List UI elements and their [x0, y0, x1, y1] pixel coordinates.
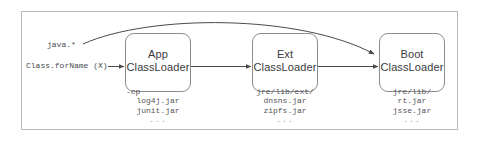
node-boot-path: jre/lib/ [377, 87, 447, 96]
class-forname-label: Class.forName (X) [26, 61, 108, 71]
node-boot-entry-0: rt.jar [377, 96, 447, 105]
node-boot-classpath-list: jre/lib/ rt.jar jsse.jar ... [377, 87, 447, 124]
node-ext-classpath-list: jre/lib/ext/ dnsns.jar zipfs.jar ... [249, 87, 321, 124]
node-boot-title-line2: ClassLoader [380, 61, 444, 74]
node-app-classpath-list: -cp log4j.jar junit.jar ... [125, 87, 191, 124]
node-boot-entry-1: jsse.jar [377, 106, 447, 115]
node-app-ellipsis: ... [125, 115, 191, 124]
node-ext-title-line1: Ext [253, 48, 317, 61]
node-boot-title-line1: Boot [380, 48, 444, 61]
node-boot-classloader[interactable]: Boot ClassLoader [379, 33, 445, 92]
node-ext-ellipsis: ... [249, 115, 321, 124]
java-package-label: java.* [47, 40, 76, 50]
node-ext-path: jre/lib/ext/ [249, 87, 321, 96]
node-ext-title-line2: ClassLoader [253, 61, 317, 74]
node-ext-entry-1: zipfs.jar [249, 106, 321, 115]
node-app-classloader[interactable]: App ClassLoader [125, 33, 191, 92]
classloader-delegation-diagram: java.* Class.forName (X) App ClassLoader… [0, 0, 479, 147]
node-app-entry-0: log4j.jar [125, 96, 191, 105]
node-app-entry-1: junit.jar [125, 106, 191, 115]
node-ext-classloader[interactable]: Ext ClassLoader [252, 33, 318, 92]
node-boot-ellipsis: ... [377, 115, 447, 124]
node-app-path: -cp [125, 87, 191, 96]
node-app-title-line2: ClassLoader [126, 61, 190, 74]
node-ext-entry-0: dnsns.jar [249, 96, 321, 105]
node-app-title-line1: App [126, 48, 190, 61]
